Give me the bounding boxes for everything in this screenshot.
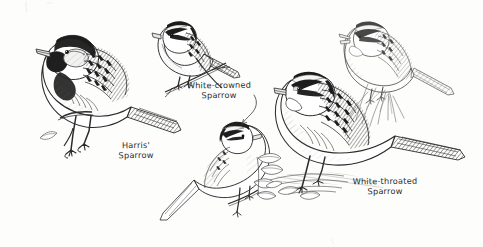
illustration-plate: Harris'Sparrow White-crownedSparrow Whit… [0, 0, 483, 247]
figure-white-crowned-sparrow-immature [160, 122, 283, 220]
sparrow-artwork [0, 0, 483, 247]
figure-white-crowned-sparrow-adult [152, 21, 240, 97]
leader-line-white-crowned [242, 95, 256, 124]
